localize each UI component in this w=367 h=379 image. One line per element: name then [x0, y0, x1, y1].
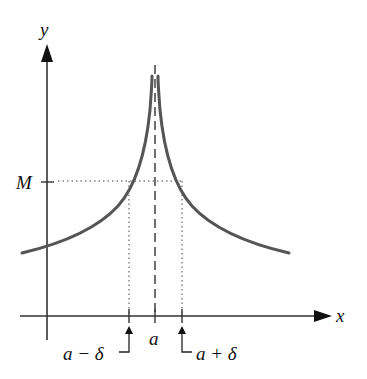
a-minus-delta-pointer: [119, 326, 133, 352]
y-axis-arrow-icon: [41, 44, 53, 62]
asymptote-diagram: y x M a a − δ a + δ: [0, 0, 367, 379]
a-minus-delta-label: a − δ: [63, 343, 105, 364]
a-plus-delta-label: a + δ: [196, 343, 238, 364]
x-axis-arrow-icon: [314, 310, 332, 322]
a-label: a: [149, 328, 159, 349]
curve-right-branch: [158, 76, 289, 253]
a-plus-delta-pointer: [178, 326, 192, 352]
arrow-up-icon: [125, 326, 133, 334]
x-axis-label: x: [335, 305, 345, 326]
y-axis: [41, 44, 53, 340]
curve-left-branch: [22, 76, 152, 253]
y-axis-label: y: [38, 19, 49, 40]
x-axis: [20, 310, 332, 322]
m-label: M: [15, 172, 33, 193]
arrow-up-icon: [178, 326, 186, 334]
